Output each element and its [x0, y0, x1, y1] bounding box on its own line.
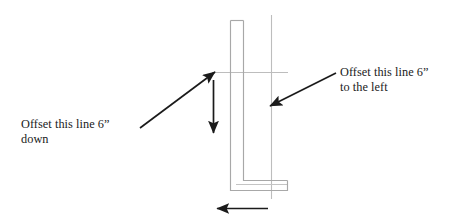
diagram-svg — [0, 0, 466, 224]
annotation-arrows — [140, 72, 336, 209]
offset-left-label-line2: to the left — [340, 80, 429, 95]
offset-left-label-line1: Offset this line 6” — [340, 65, 429, 80]
offset-left-annotation-label: Offset this line 6” to the left — [340, 65, 429, 95]
offset-down-label-line2: down — [21, 132, 110, 147]
construction-lines — [212, 15, 288, 199]
u-channel-profile — [231, 21, 288, 191]
offset-down-label-line1: Offset this line 6” — [21, 117, 110, 132]
offset-down-annotation-label: Offset this line 6” down — [21, 117, 110, 147]
diagonal-arrow-down-left — [270, 73, 336, 106]
diagonal-arrow-up-right — [140, 72, 215, 128]
profile-outer-edge — [231, 21, 288, 191]
diagram-canvas: Offset this line 6” down Offset this lin… — [0, 0, 466, 224]
